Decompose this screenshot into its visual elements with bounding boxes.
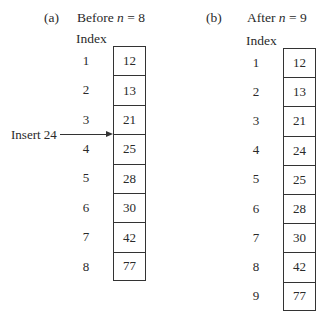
panel-a-index-header: Index [76,31,107,47]
index-label: 4 [246,142,266,158]
array-cell: 42 [284,253,315,282]
index-label: 2 [246,84,266,100]
array-cell: 30 [284,224,315,253]
panel-b-array: 121321242528304277 [283,48,316,311]
array-cell: 25 [114,135,145,164]
index-label: 1 [76,53,96,69]
array-cell: 25 [284,166,315,195]
insert-arrow-line [60,134,106,135]
index-label: 3 [246,113,266,129]
panel-b-index-header: Index [246,33,277,49]
index-label: 5 [76,170,96,186]
array-cell: 42 [114,223,145,252]
index-label: 7 [76,229,96,245]
array-cell: 12 [284,49,315,78]
index-label: 8 [246,259,266,275]
array-cell: 77 [284,283,315,310]
panel-a-label: (a) [44,10,59,26]
array-cell: 30 [114,194,145,223]
panel-a-caption: Before n = 8 [77,10,145,26]
array-cell: 28 [284,195,315,224]
panel-b-label: (b) [206,10,222,26]
index-label: 3 [76,112,96,128]
array-cell: 24 [284,137,315,166]
index-label: 2 [76,82,96,98]
panel-a-array: 1213212528304277 [113,46,146,281]
panel-b-caption: After n = 9 [247,10,307,26]
index-label: 9 [246,288,266,304]
array-cell: 21 [284,107,315,136]
index-label: 8 [76,259,96,275]
index-label: 5 [246,171,266,187]
index-label: 1 [246,55,266,71]
index-label: 6 [76,200,96,216]
array-cell: 28 [114,165,145,194]
insert-label: Insert 24 [11,127,57,143]
array-cell: 77 [114,253,145,280]
array-cell: 12 [114,47,145,76]
index-label: 4 [76,141,96,157]
insert-arrow-head-icon [106,131,113,137]
array-cell: 21 [114,106,145,135]
array-cell: 13 [114,76,145,105]
index-label: 7 [246,230,266,246]
index-label: 6 [246,201,266,217]
array-cell: 13 [284,78,315,107]
